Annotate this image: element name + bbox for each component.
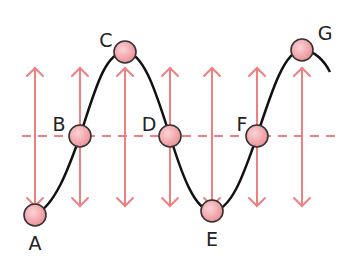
point-d bbox=[159, 125, 181, 147]
point-e bbox=[201, 200, 223, 222]
label-c: C bbox=[99, 29, 112, 51]
label-e: E bbox=[206, 228, 218, 250]
label-f: F bbox=[237, 113, 248, 135]
point-g bbox=[291, 39, 313, 61]
label-b: B bbox=[52, 113, 65, 135]
wave-points bbox=[24, 39, 313, 226]
point-c bbox=[114, 41, 136, 63]
point-f bbox=[246, 125, 268, 147]
wave-diagram: A B C D E F G bbox=[0, 0, 357, 261]
point-a bbox=[24, 204, 46, 226]
label-a: A bbox=[29, 232, 42, 254]
point-b bbox=[69, 125, 91, 147]
label-d: D bbox=[142, 113, 157, 135]
label-g: G bbox=[318, 22, 333, 44]
